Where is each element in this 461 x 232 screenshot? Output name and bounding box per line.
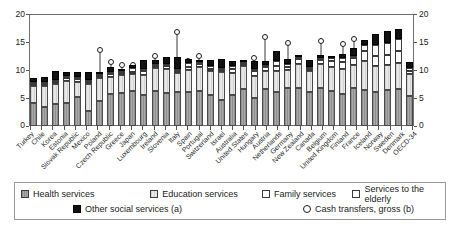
bar-segment-education bbox=[218, 72, 225, 101]
bar-segment-education bbox=[251, 76, 258, 98]
bar-group[interactable] bbox=[185, 15, 192, 126]
bar-segment-other bbox=[218, 59, 225, 67]
bar-segment-education bbox=[41, 86, 48, 107]
cash-transfer-marker[interactable] bbox=[285, 40, 291, 46]
legend-item-family[interactable]: Family services bbox=[262, 189, 352, 199]
bar-segment-health bbox=[262, 89, 269, 126]
bar-series-container bbox=[30, 15, 413, 126]
bar-segment-health bbox=[328, 91, 335, 126]
bar-group[interactable] bbox=[140, 15, 147, 126]
bar-segment-education bbox=[107, 77, 114, 94]
stacked-bar bbox=[185, 59, 192, 126]
bar-segment-health bbox=[350, 88, 357, 126]
cash-transfer-marker[interactable] bbox=[318, 38, 324, 44]
y-axis-label-10: 10 bbox=[5, 66, 25, 74]
bar-group[interactable] bbox=[295, 15, 302, 126]
bar-segment-health bbox=[218, 100, 225, 126]
bar-group[interactable] bbox=[163, 15, 170, 126]
bar-segment-other bbox=[52, 71, 59, 80]
bar-group[interactable] bbox=[395, 15, 402, 126]
legend-label-other: Other social services (a) bbox=[85, 204, 182, 214]
bar-segment-elderly bbox=[384, 43, 391, 55]
bar-group[interactable] bbox=[152, 15, 159, 126]
bar-segment-education bbox=[328, 67, 335, 91]
bar-segment-education bbox=[207, 71, 214, 95]
bar-segment-education bbox=[30, 86, 37, 103]
bar-group[interactable] bbox=[41, 15, 48, 126]
bar-group[interactable] bbox=[350, 15, 357, 126]
legend-item-health[interactable]: Health services bbox=[21, 189, 150, 199]
bar-group[interactable] bbox=[361, 15, 368, 126]
bar-segment-other bbox=[174, 57, 181, 69]
bar-segment-health bbox=[395, 89, 402, 126]
bar-segment-education bbox=[163, 69, 170, 93]
bar-group[interactable] bbox=[96, 15, 103, 126]
bar-group[interactable] bbox=[251, 15, 258, 126]
cash-transfer-marker[interactable] bbox=[108, 59, 114, 65]
bar-segment-health bbox=[174, 92, 181, 126]
cash-transfer-marker[interactable] bbox=[152, 53, 158, 59]
bar-group[interactable] bbox=[74, 15, 81, 126]
y2-tick-5 bbox=[414, 98, 417, 99]
cash-transfer-marker[interactable] bbox=[174, 29, 180, 35]
bar-segment-education bbox=[240, 66, 247, 89]
bar-group[interactable] bbox=[273, 15, 280, 126]
stacked-bar bbox=[118, 69, 125, 126]
bar-group[interactable] bbox=[174, 15, 181, 126]
cash-transfer-marker[interactable] bbox=[196, 53, 202, 59]
bar-group[interactable] bbox=[118, 15, 125, 126]
stacked-bar bbox=[207, 60, 214, 126]
bar-group[interactable] bbox=[284, 15, 291, 126]
legend-item-cash-transfers[interactable]: Cash transfers, gross (b) bbox=[303, 204, 414, 214]
bar-group[interactable] bbox=[218, 15, 225, 126]
stacked-bar bbox=[306, 60, 313, 126]
bar-segment-education bbox=[361, 61, 368, 90]
education-swatch-icon bbox=[150, 190, 158, 198]
legend-item-elderly[interactable]: Services to the elderly bbox=[352, 184, 439, 204]
bar-segment-education bbox=[63, 81, 70, 103]
stacked-bar bbox=[350, 48, 357, 126]
family-swatch-icon bbox=[262, 190, 270, 198]
stacked-bar bbox=[96, 72, 103, 126]
bar-group[interactable] bbox=[384, 15, 391, 126]
bar-group[interactable] bbox=[30, 15, 37, 126]
bar-group[interactable] bbox=[129, 15, 136, 126]
bar-group[interactable] bbox=[196, 15, 203, 126]
cash-transfer-marker[interactable] bbox=[262, 34, 268, 40]
bar-segment-health bbox=[85, 111, 92, 126]
bar-segment-education bbox=[118, 75, 125, 93]
bar-group[interactable] bbox=[339, 15, 346, 126]
cash-transfer-marker[interactable] bbox=[119, 62, 125, 68]
bar-segment-education bbox=[317, 64, 324, 87]
bar-group[interactable] bbox=[229, 15, 236, 126]
bar-group[interactable] bbox=[317, 15, 324, 126]
y2-tick-15 bbox=[414, 42, 417, 43]
bar-group[interactable] bbox=[262, 15, 269, 126]
bar-group[interactable] bbox=[306, 15, 313, 126]
bar-group[interactable] bbox=[63, 15, 70, 126]
bar-segment-health bbox=[339, 94, 346, 126]
bar-segment-family bbox=[395, 51, 402, 63]
bar-segment-health bbox=[41, 107, 48, 126]
cash-transfer-marker[interactable] bbox=[340, 41, 346, 47]
y-axis-label-20: 20 bbox=[5, 10, 25, 18]
bar-segment-health bbox=[273, 92, 280, 126]
cash-transfer-marker[interactable] bbox=[97, 47, 103, 53]
legend-item-other[interactable]: Other social services (a) bbox=[73, 204, 303, 214]
y-axis-label-0: 0 bbox=[5, 121, 25, 129]
chart-legend: Health services Education services Famil… bbox=[14, 182, 446, 220]
bar-group[interactable] bbox=[207, 15, 214, 126]
bar-group[interactable] bbox=[406, 15, 413, 126]
legend-item-education[interactable]: Education services bbox=[150, 189, 262, 199]
bar-segment-education bbox=[152, 68, 159, 91]
y2-axis-label-5: 5 bbox=[419, 94, 439, 102]
stacked-bar bbox=[262, 61, 269, 126]
bar-group[interactable] bbox=[85, 15, 92, 126]
bar-group[interactable] bbox=[52, 15, 59, 126]
bar-group[interactable] bbox=[328, 15, 335, 126]
bar-group[interactable] bbox=[107, 15, 114, 126]
bar-group[interactable] bbox=[372, 15, 379, 126]
y-tick-0 bbox=[26, 126, 29, 127]
bar-group[interactable] bbox=[240, 15, 247, 126]
cash-transfer-marker[interactable] bbox=[351, 36, 357, 42]
